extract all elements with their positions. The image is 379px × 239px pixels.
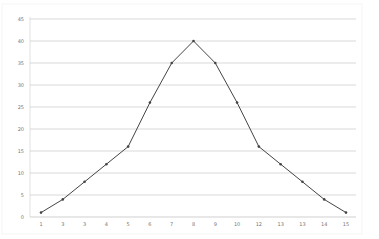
chart-frame	[2, 4, 362, 234]
x-tick-label: 13	[277, 221, 283, 227]
x-tick-label: 6	[148, 221, 151, 227]
data-point-marker	[279, 163, 282, 166]
data-markers	[40, 40, 348, 214]
y-tick-label: 5	[21, 192, 24, 198]
data-point-marker	[214, 62, 217, 65]
y-tick-label: 35	[18, 60, 24, 66]
y-tick-label: 40	[18, 38, 24, 44]
x-tick-label: 10	[234, 221, 240, 227]
data-point-marker	[105, 163, 108, 166]
x-tick-label: 14	[321, 221, 327, 227]
x-tick-label: 1	[39, 221, 42, 227]
data-point-marker	[40, 211, 43, 214]
data-point-marker	[323, 198, 326, 201]
x-tick-label: 4	[105, 221, 108, 227]
data-point-marker	[345, 211, 348, 214]
x-axis-labels: 133456789101213131415	[39, 221, 349, 227]
x-tick-label: 13	[299, 221, 305, 227]
data-point-marker	[83, 181, 86, 184]
y-tick-label: 15	[18, 148, 24, 154]
x-tick-label: 7	[170, 221, 173, 227]
line-chart: 051015202530354045 133456789101213131415	[0, 0, 379, 239]
data-point-marker	[301, 181, 304, 184]
y-tick-label: 45	[18, 16, 24, 22]
y-tick-label: 25	[18, 104, 24, 110]
x-tick-label: 5	[127, 221, 130, 227]
x-tick-label: 3	[61, 221, 64, 227]
data-line	[41, 41, 346, 213]
y-tick-label: 10	[18, 170, 24, 176]
x-tick-label: 12	[256, 221, 262, 227]
data-point-marker	[170, 62, 173, 65]
data-point-marker	[127, 145, 130, 148]
gridlines	[30, 19, 356, 217]
y-axis-labels: 051015202530354045	[18, 16, 24, 220]
data-point-marker	[149, 101, 152, 104]
y-tick-label: 0	[21, 214, 24, 220]
y-tick-label: 30	[18, 82, 24, 88]
y-tick-label: 20	[18, 126, 24, 132]
x-tick-label: 3	[83, 221, 86, 227]
x-tick-label: 9	[214, 221, 217, 227]
data-point-marker	[192, 40, 195, 43]
x-tick-label: 8	[192, 221, 195, 227]
x-tick-label: 15	[343, 221, 349, 227]
data-point-marker	[236, 101, 239, 104]
data-point-marker	[258, 145, 261, 148]
data-point-marker	[61, 198, 64, 201]
